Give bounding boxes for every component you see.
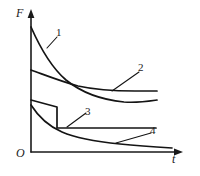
x-axis-arrowhead-icon [174,149,183,156]
callout-leader-4 [116,133,151,143]
origin-label: O [16,147,25,159]
force-time-diagram: F O t 1 2 3 4 [0,0,200,176]
callout-leader-2 [112,72,139,91]
callout-leader-3 [67,113,86,127]
diagram-canvas [0,0,200,176]
curve-label-1: 1 [56,27,62,38]
x-axis-label: t [172,153,175,165]
callout-leader-1 [47,37,57,48]
y-axis-arrowhead-icon [28,9,35,18]
curve-3 [31,100,156,128]
curve-label-4: 4 [150,125,156,136]
curve-label-2: 2 [138,62,144,73]
curve-label-3: 3 [85,106,91,117]
y-axis-label: F [16,7,23,19]
